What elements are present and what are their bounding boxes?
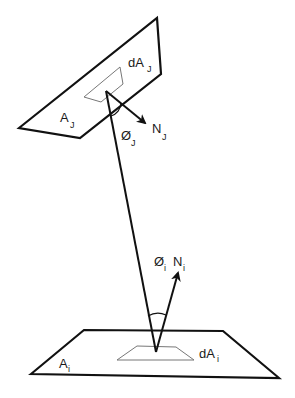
label-Nj-sub: J [162, 132, 167, 142]
label-Ai: A [59, 356, 68, 371]
normal-i-arrow [156, 273, 178, 352]
label-Aj: A [60, 110, 69, 125]
label-angle-i-sub: i [164, 263, 166, 273]
label-angle-i: Ø [154, 254, 164, 269]
angle-i-arc [148, 313, 166, 316]
label-Ni: N [173, 254, 182, 269]
label-dAj: dA [128, 55, 144, 70]
surface-j-panel [19, 18, 161, 138]
label-dAj-sub: J [147, 64, 152, 74]
view-factor-diagram: dA J A J Ø J N J Ø i N i dA i A i [0, 0, 295, 398]
label-Ai-sub: i [68, 364, 70, 374]
label-dAi: dA [199, 346, 215, 361]
label-dAi-sub: i [217, 354, 219, 364]
label-Ni-sub: i [183, 263, 185, 273]
label-angle-j-sub: J [131, 138, 136, 148]
label-Nj: N [152, 121, 161, 136]
label-Aj-sub: J [70, 120, 75, 130]
label-angle-j: Ø [121, 128, 131, 143]
